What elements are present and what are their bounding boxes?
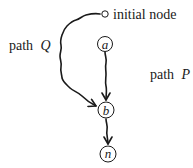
path-p-label: path P: [150, 67, 191, 82]
path-q-var: Q: [41, 38, 51, 53]
edge-b-to-n: [106, 119, 108, 144]
node-n-label: n: [105, 146, 112, 161]
path-q-label: path Q: [9, 38, 51, 53]
path-p-var: P: [181, 67, 191, 82]
path-diagram: initial node a b n path Q path P: [0, 0, 193, 168]
edge-path-p: [105, 52, 106, 100]
node-b-label: b: [103, 103, 110, 118]
path-p-word: path: [150, 67, 174, 82]
initial-node-label: initial node: [113, 7, 176, 22]
edge-path-q: [60, 14, 100, 106]
path-q-word: path: [9, 38, 33, 53]
initial-node: [102, 11, 108, 17]
node-a-label: a: [102, 37, 109, 52]
